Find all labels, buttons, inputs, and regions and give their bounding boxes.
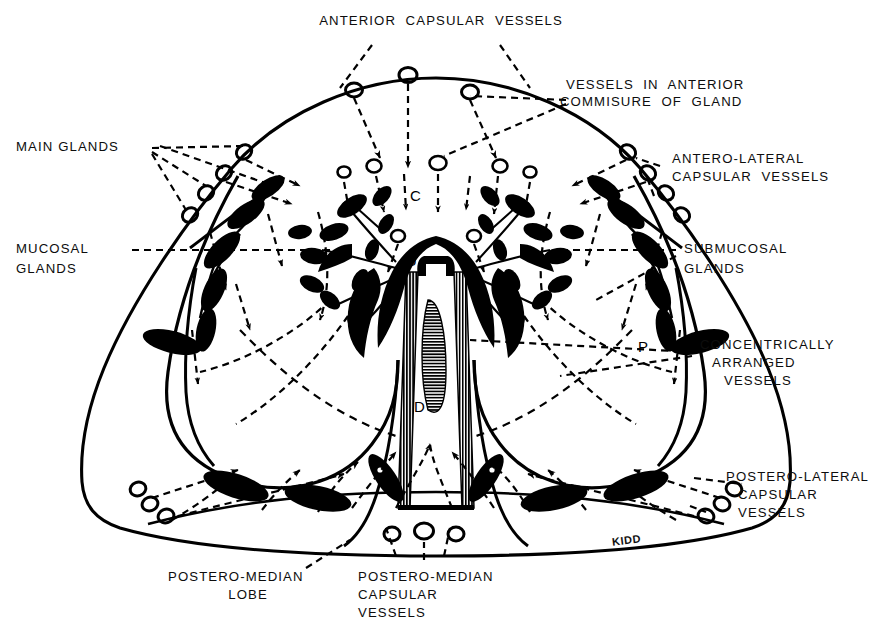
label-concentrically-arranged-vessels-line3: VESSELS [724,372,874,389]
label-submucosal-glands-line2: GLANDS [684,260,874,277]
label-concentrically-arranged-vessels-line2: ARRANGED [712,354,874,371]
label-vessels-in-anterior-commisure-line2: COMMISURE OF GLAND [560,93,810,110]
label-submucosal-glands-line1: SUBMUCOSAL [684,240,874,257]
marker-d-duct: D [414,398,425,415]
label-postero-median-lobe-line2: LOBE [168,586,328,603]
anatomical-diagram: ANTERIOR CAPSULAR VESSELS VESSELS IN ANT… [0,0,874,635]
label-postero-median-capsular-vessels-line2: CAPSULAR [358,586,558,603]
label-postero-median-capsular-vessels-line3: VESSELS [358,604,558,621]
label-vessels-in-anterior-commisure-line1: VESSELS IN ANTERIOR [566,76,796,93]
label-mucosal-glands-line1: MUCOSAL [16,240,196,257]
urethra-hatched-channel [398,256,474,510]
label-postero-lateral-capsular-vessels-line1: POSTERO-LATERAL [726,468,874,485]
marker-p-right-peripheral: P [638,338,648,355]
label-antero-lateral-capsular-vessels-line2: CAPSULAR VESSELS [672,168,874,185]
label-antero-lateral-capsular-vessels-line1: ANTERO-LATERAL [672,150,874,167]
label-postero-lateral-capsular-vessels-line2: CAPSULAR [738,486,874,503]
label-postero-median-capsular-vessels-line1: POSTERO-MEDIAN [358,568,558,585]
main-gland-branches-right [583,170,731,466]
marker-c-central-zone: C [410,187,421,204]
label-mucosal-glands-line2: GLANDS [16,260,196,277]
label-main-glands: MAIN GLANDS [16,138,196,155]
marker-u-urethra: U [406,252,417,269]
main-gland-branches-left [140,170,288,466]
label-postero-median-lobe-line1: POSTERO-MEDIAN [168,568,368,585]
marker-p-left-peripheral: P [178,338,188,355]
label-postero-lateral-capsular-vessels-line3: VESSELS [738,504,874,521]
label-concentrically-arranged-vessels-line1: CONCENTRICALLY [700,336,874,353]
label-anterior-capsular-vessels: ANTERIOR CAPSULAR VESSELS [286,12,596,29]
